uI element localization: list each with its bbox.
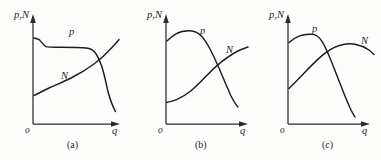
panel-b-axes — [163, 14, 248, 127]
panel-b-y-axis-label: p,N — [147, 10, 162, 21]
panel-c-curve-label-n: N — [361, 36, 368, 47]
panel-c-axes — [285, 14, 370, 127]
panel-b-caption: (b) — [195, 140, 207, 150]
panel-a-axes — [30, 14, 120, 127]
panel-c-origin-label: o — [280, 126, 285, 136]
panel-a-origin-label: o — [25, 126, 30, 136]
panel-b-x-axis-label: q — [240, 126, 245, 137]
panel-c-x-axis-label: q — [362, 126, 367, 137]
panel-c-y-axis-label: p,N — [269, 10, 284, 21]
panel-a-x-axis-label: q — [112, 126, 117, 137]
panel-c-y-axis-arrow-icon — [285, 14, 291, 23]
panel-b-curve-label-n: N — [226, 45, 233, 56]
panel-c-curve-p — [289, 34, 355, 117]
panel-b-curve-p — [167, 31, 238, 107]
panel-a-curve-p — [34, 38, 116, 112]
panel-b-curve-n — [167, 47, 248, 103]
panel-a-caption: (a) — [67, 140, 78, 150]
panel-a-curve-label-p: p — [69, 27, 74, 38]
panel-c-caption: (c) — [322, 140, 333, 150]
panel-b-y-axis-arrow-icon — [163, 14, 169, 23]
pump-characteristic-figure: p,N o q p N (a) p,N o q p N (b) p,N o q … — [0, 0, 381, 160]
panel-c-curve-label-p: p — [312, 24, 317, 35]
panel-a-y-axis-label: p,N — [14, 10, 29, 21]
panel-b-origin-label: o — [158, 126, 163, 136]
panel-a-curve-label-n: N — [61, 71, 68, 82]
panel-a-y-axis-arrow-icon — [30, 14, 36, 23]
panel-c-curve-n — [289, 44, 374, 89]
panel-b-curve-label-p: p — [200, 26, 205, 37]
curves-canvas — [0, 0, 381, 160]
